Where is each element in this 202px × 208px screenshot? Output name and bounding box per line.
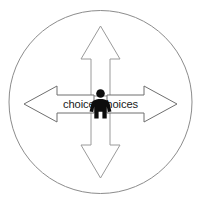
choices-diagram: choices choices [0,0,202,208]
diagram-canvas: choices choices [0,0,202,208]
person-head-icon [96,89,105,98]
